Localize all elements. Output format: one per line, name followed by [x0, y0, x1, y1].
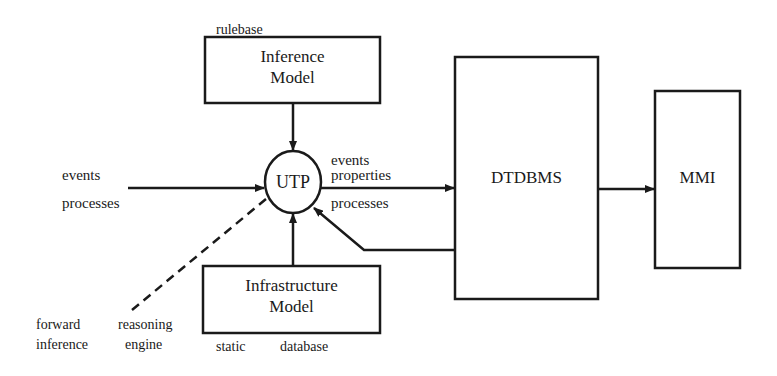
inference-model-title-line2: Model — [205, 67, 380, 88]
forward-inference-label-line1: forward — [36, 317, 80, 332]
diagram-canvas — [0, 0, 777, 376]
inference-model-title: Inference Model — [205, 46, 380, 88]
output-properties-label: properties — [331, 168, 391, 183]
output-events-label: events — [331, 153, 369, 168]
rulebase-annotation: rulebase — [216, 22, 263, 37]
infrastructure-model-title: Infrastructure Model — [203, 275, 380, 317]
dtdbms-label: DTDBMS — [455, 167, 598, 188]
reasoning-engine-label-line1: reasoning — [118, 317, 172, 332]
arrow-dtdbms-feedback-to-utp — [314, 208, 455, 250]
infrastructure-model-title-line1: Infrastructure — [203, 275, 380, 296]
output-processes-label: processes — [331, 196, 388, 211]
input-processes-label: processes — [62, 196, 119, 211]
static-annotation: static — [216, 339, 246, 354]
database-annotation: database — [280, 339, 328, 354]
mmi-label: MMI — [655, 167, 740, 188]
utp-label: UTP — [265, 172, 321, 193]
reasoning-engine-label-line2: engine — [125, 337, 162, 352]
forward-inference-label-line2: inference — [36, 337, 88, 352]
inference-model-title-line1: Inference — [205, 46, 380, 67]
infrastructure-model-title-line2: Model — [203, 296, 380, 317]
input-events-label: events — [62, 168, 100, 183]
